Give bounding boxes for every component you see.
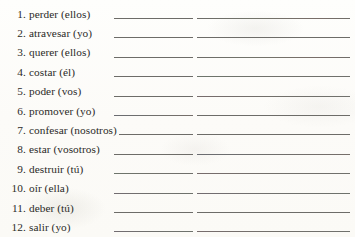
exercise-row: 5.poder (vos) [0, 82, 355, 101]
item-number: 2. [0, 27, 26, 39]
exercise-row: 2.atravesar (yo) [0, 23, 355, 42]
item-prompt: poder (vos) [29, 85, 81, 97]
exercise-row: 7.confesar (nosotros) [0, 120, 355, 139]
conjugation-worksheet: 1.perder (ellos)2.atravesar (yo)3.querer… [0, 0, 355, 237]
answer-blank-second[interactable] [197, 96, 350, 97]
answer-blank-second[interactable] [197, 173, 350, 174]
exercise-row: 6.promover (yo) [0, 101, 355, 120]
item-number: 11. [0, 202, 26, 214]
answer-blank-second[interactable] [197, 231, 350, 232]
item-number: 10. [0, 182, 26, 194]
item-prompt: salir (yo) [29, 221, 71, 233]
answer-blank-second[interactable] [197, 115, 350, 116]
exercise-row: 12.salir (yo) [0, 217, 355, 236]
answer-blank-first[interactable] [114, 173, 193, 174]
exercise-row: 10.oír (ella) [0, 179, 355, 198]
item-prompt: oír (ella) [29, 182, 69, 194]
item-number: 12. [0, 221, 26, 233]
answer-blank-second[interactable] [197, 212, 350, 213]
exercise-row: 8.estar (vosotros) [0, 140, 355, 159]
item-number: 9. [0, 163, 26, 175]
answer-blank-second[interactable] [197, 154, 350, 155]
item-prompt: estar (vosotros) [29, 143, 100, 155]
answer-blank-second[interactable] [197, 193, 350, 194]
answer-blank-second[interactable] [197, 18, 350, 19]
exercise-row: 11.deber (tú) [0, 198, 355, 217]
item-prompt: perder (ellos) [29, 8, 90, 20]
answer-blank-second[interactable] [197, 76, 350, 77]
item-number: 6. [0, 105, 26, 117]
item-number: 8. [0, 143, 26, 155]
answer-blank-first[interactable] [114, 96, 193, 97]
item-prompt: deber (tú) [29, 202, 74, 214]
item-prompt: promover (yo) [29, 105, 95, 117]
item-number: 4. [0, 66, 26, 78]
item-number: 3. [0, 46, 26, 58]
item-prompt: atravesar (yo) [29, 27, 92, 39]
exercise-row: 9.destruir (tú) [0, 159, 355, 178]
answer-blank-first[interactable] [114, 193, 193, 194]
item-number: 5. [0, 85, 26, 97]
item-prompt: querer (ellos) [29, 46, 90, 58]
answer-blank-first[interactable] [114, 231, 193, 232]
item-number: 7. [0, 124, 26, 136]
answer-blank-first[interactable] [114, 154, 193, 155]
answer-blank-first[interactable] [114, 212, 193, 213]
answer-blank-second[interactable] [197, 134, 350, 135]
answer-blank-second[interactable] [197, 37, 350, 38]
item-number: 1. [0, 8, 26, 20]
item-prompt: confesar (nosotros) [29, 124, 117, 136]
answer-blank-first[interactable] [119, 134, 193, 135]
answer-blank-first[interactable] [114, 76, 193, 77]
answer-blank-second[interactable] [197, 57, 350, 58]
answer-blank-first[interactable] [114, 37, 193, 38]
answer-blank-first[interactable] [114, 115, 193, 116]
exercise-row: 3.querer (ellos) [0, 43, 355, 62]
exercise-row: 1.perder (ellos) [0, 4, 355, 23]
answer-blank-first[interactable] [114, 18, 193, 19]
item-prompt: destruir (tú) [29, 163, 83, 175]
exercise-row: 4.costar (él) [0, 62, 355, 81]
answer-blank-first[interactable] [114, 57, 193, 58]
item-prompt: costar (él) [29, 66, 75, 78]
